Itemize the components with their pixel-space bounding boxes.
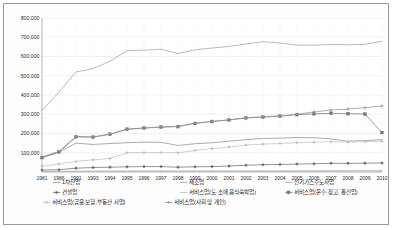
data-point-marker: [177, 151, 180, 154]
data-point-marker: [55, 191, 58, 194]
x-axis-tick-label: 1995: [121, 175, 132, 181]
legend-item[interactable]: 서비스업(도·소매 음식숙박업): [180, 188, 256, 196]
x-axis-tick-label: 2009: [359, 175, 370, 181]
x-axis-tick-label: 1993: [87, 175, 98, 181]
x-axis-tick-label: 2008: [342, 175, 353, 181]
chart-frame: 800,000700,000600,000500,000400,000300,0…: [3, 3, 389, 225]
x-axis-tick-label: 2000: [206, 175, 217, 181]
data-point-marker: [211, 147, 214, 150]
y-axis-tick-label: 200,000: [21, 130, 40, 136]
legend-label: 서비스업(사회 및 개인): [174, 198, 226, 206]
legend-item[interactable]: 서비스업(사회 및 개인): [165, 198, 226, 206]
x-axis-tick-label: 1994: [104, 175, 115, 181]
legend-label: 제조업: [189, 178, 204, 186]
data-point-marker: [330, 112, 333, 115]
y-axis-tick-label: 500,000: [21, 73, 40, 79]
x-axis-tick-label: 1996: [138, 175, 149, 181]
y-axis-tick-label: 700,000: [21, 34, 40, 40]
y-axis-tick-label: 400,000: [21, 92, 40, 98]
data-point-marker: [330, 140, 333, 143]
y-axis-tick-label: 800,000: [21, 15, 40, 21]
legend-label: 서비스업(도·소매 음식숙박업): [189, 188, 256, 196]
data-point-marker: [347, 112, 350, 115]
legend-label: 건설업: [62, 188, 77, 195]
x-axis-tick-label: 2004: [274, 175, 285, 181]
data-point-marker: [126, 151, 129, 154]
legend-item[interactable]: 제조업: [180, 178, 204, 186]
data-point-marker: [381, 140, 384, 143]
legend-item[interactable]: 건설업: [53, 188, 77, 195]
data-point-marker: [92, 158, 95, 161]
y-axis-tick-label: 300,000: [21, 111, 40, 117]
data-point-marker: [287, 191, 290, 194]
data-point-marker: [381, 131, 384, 134]
data-point-marker: [45, 201, 48, 204]
x-axis-tick-label: 2002: [240, 175, 251, 181]
legend-label: 서비스업(금융,보험,부동산 사업): [52, 198, 126, 206]
x-axis-tick-label: 2003: [257, 175, 268, 181]
line-chart: 800,000700,000600,000500,000400,000300,0…: [4, 4, 390, 226]
y-axis-tick-label: 100,000: [21, 150, 40, 156]
y-axis-tick-label: 600,000: [21, 53, 40, 59]
data-point-marker: [167, 201, 170, 204]
data-point-marker: [194, 149, 197, 152]
chart-svg: 800,000700,000600,000500,000400,000300,0…: [4, 4, 390, 226]
x-axis-tick-label: 1981: [36, 175, 47, 181]
data-point-marker: [364, 113, 367, 116]
x-axis-tick-label: 2010: [376, 175, 387, 181]
legend-item[interactable]: 서비스업(운수·창고, 통신업): [285, 188, 358, 196]
x-axis-tick-label: 1997: [155, 175, 166, 181]
chart-legend: 1차산업제조업전기가스수도사업건설업서비스업(도·소매 음식숙박업)서비스업(운…: [43, 178, 358, 206]
x-axis-tick-label: 1998: [172, 175, 183, 181]
legend-label: 서비스업(운수·창고, 통신업): [294, 188, 358, 196]
legend-item[interactable]: 서비스업(금융,보험,부동산 사업): [43, 198, 126, 206]
legend-label: 전기가스수도사업: [294, 178, 334, 186]
data-point-marker: [245, 144, 248, 147]
x-axis-tick-label: 2001: [223, 175, 234, 181]
legend-label: 1차산업: [62, 178, 80, 186]
